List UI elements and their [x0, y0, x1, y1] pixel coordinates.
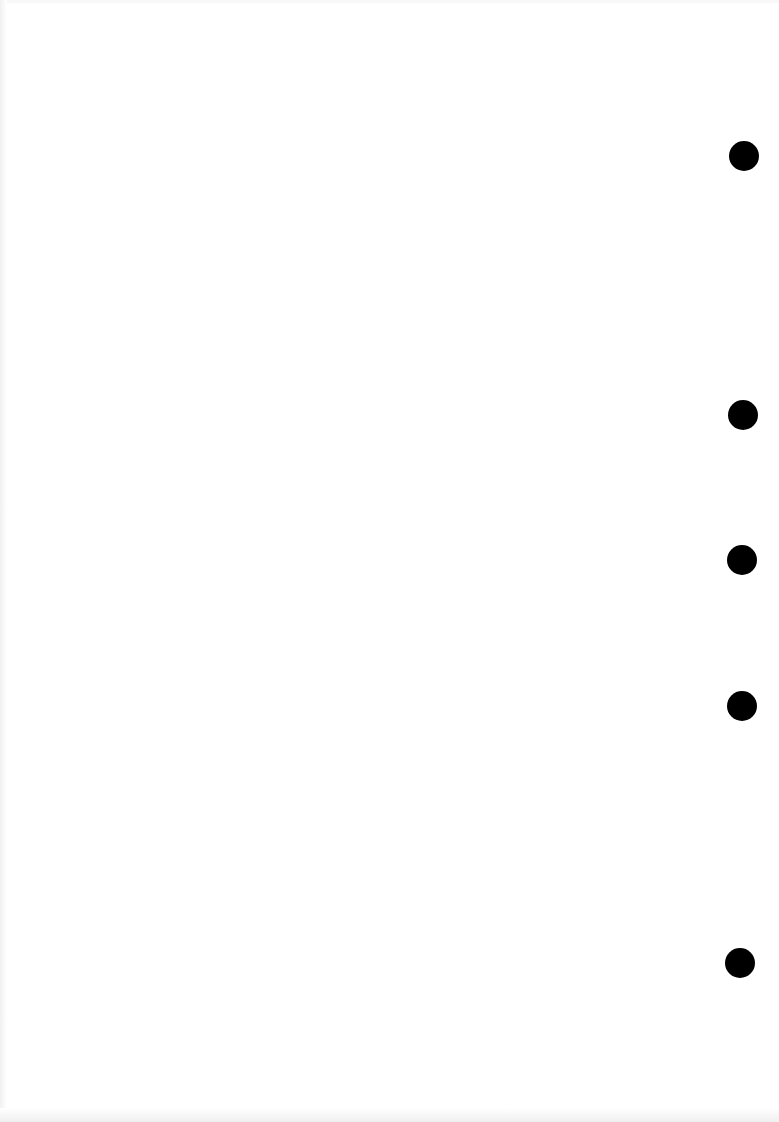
punch-hole-icon: [725, 948, 755, 978]
punch-hole-icon: [727, 691, 757, 721]
page-left-edge-shadow: [0, 0, 7, 1122]
punch-hole-icon: [729, 141, 759, 171]
page-top-edge: [0, 0, 779, 3]
punch-hole-icon: [727, 545, 757, 575]
blank-page: [0, 0, 779, 1122]
page-bottom-edge-shadow: [0, 1108, 779, 1122]
punch-hole-icon: [728, 400, 758, 430]
